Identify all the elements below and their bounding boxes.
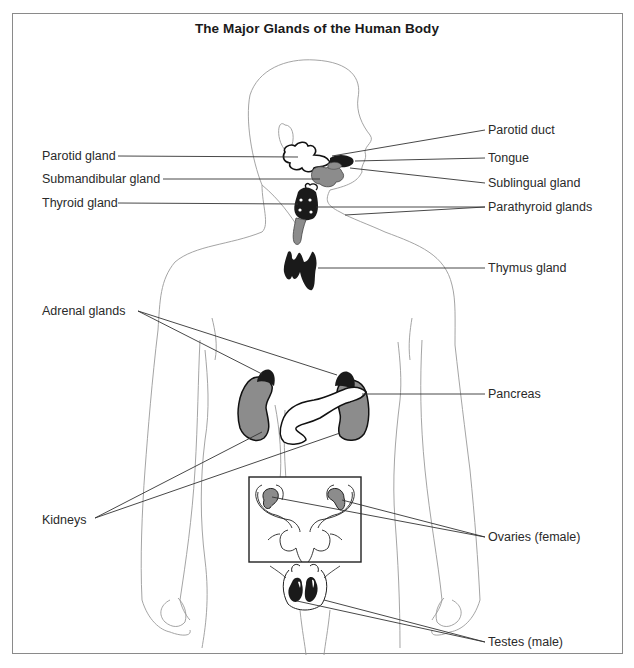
label-adrenal-glands: Adrenal glands xyxy=(42,304,125,318)
left-kidney-shape xyxy=(238,377,272,440)
left-testis-shape xyxy=(288,578,302,602)
label-parathyroid-glands: Parathyroid glands xyxy=(488,200,592,214)
body-illustration xyxy=(0,0,634,668)
label-thyroid-gland: Thyroid gland xyxy=(42,196,118,210)
label-tongue: Tongue xyxy=(488,151,529,165)
right-testis-shape xyxy=(305,577,318,602)
label-parotid-gland: Parotid gland xyxy=(42,149,116,163)
leader-lines xyxy=(95,130,485,642)
label-parotid-duct: Parotid duct xyxy=(488,123,555,137)
organ-shapes xyxy=(238,142,369,444)
trachea-shape xyxy=(293,218,306,244)
label-sublingual-gland: Sublingual gland xyxy=(488,176,580,190)
label-testes: Testes (male) xyxy=(488,635,563,649)
label-pancreas: Pancreas xyxy=(488,387,541,401)
label-ovaries: Ovaries (female) xyxy=(488,530,580,544)
label-kidneys: Kidneys xyxy=(42,513,86,527)
label-thymus-gland: Thymus gland xyxy=(488,261,567,275)
ovaries-inset xyxy=(249,477,361,562)
submandibular-gland-shape xyxy=(311,166,343,187)
label-submandibular-gland: Submandibular gland xyxy=(42,172,160,186)
thymus-gland-shape xyxy=(284,251,317,290)
